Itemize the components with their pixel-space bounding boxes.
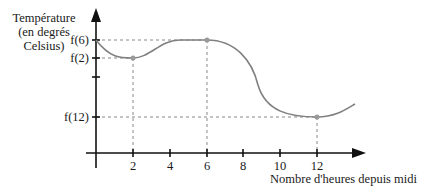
x-tick-12: 12 [311,159,324,173]
marked-points [131,38,320,120]
x-tick-2: 2 [130,159,136,173]
guide-lines [96,40,317,153]
x-tick-6: 6 [204,159,210,173]
x-tick-10: 10 [274,159,287,173]
y-axis-label-line2: (en degrés [18,25,70,39]
x-tick-8: 8 [240,159,246,173]
y-tick-f12: f(12) [64,110,89,124]
chart-canvas: Température (en degrés Celsius) f(6) f(2… [0,0,434,194]
chart: Température (en degrés Celsius) f(6) f(2… [0,0,434,194]
x-axis-arrow-icon [352,148,366,158]
temperature-curve [96,40,355,117]
y-tick-f6: f(6) [70,33,89,47]
x-axis-label: Nombre d'heures depuis midi [270,172,418,186]
y-axis-arrow-icon [91,8,101,22]
x-tick-4: 4 [167,159,174,173]
y-axis-label-line1: Température [13,11,76,25]
y-axis-label-line3: Celsius) [24,39,65,53]
y-tick-f2: f(2) [70,51,89,65]
